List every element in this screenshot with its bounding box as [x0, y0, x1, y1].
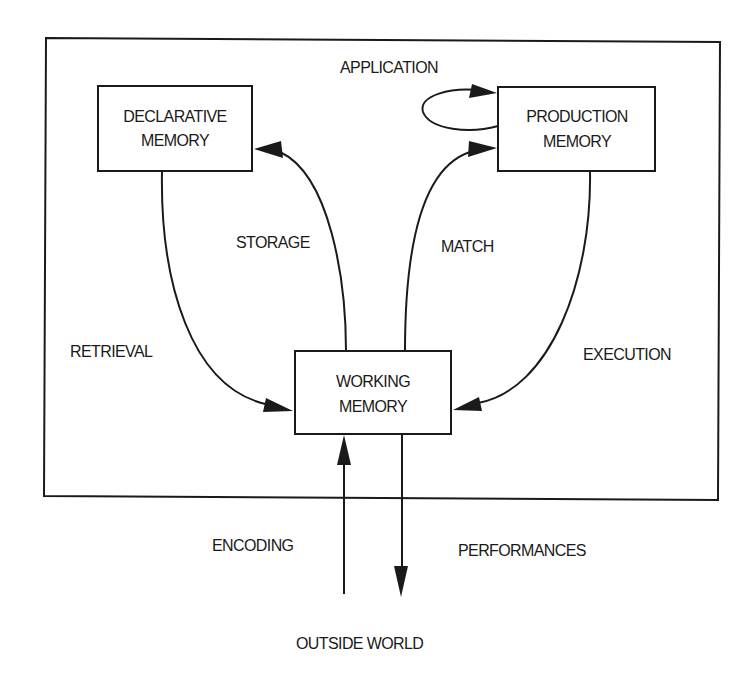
storage-path [280, 152, 346, 351]
outside-world-label: OUTSIDE WORLD [296, 635, 423, 652]
node-working-memory: WORKING MEMORY [295, 351, 451, 434]
retrieval-path [162, 171, 270, 405]
edge-storage: STORAGE [236, 141, 346, 351]
declarative-memory-box [98, 86, 252, 171]
encoding-label: ENCODING [212, 537, 294, 554]
declarative-memory-label-line1: DECLARATIVE [123, 108, 226, 125]
edge-match: MATCH [405, 141, 497, 351]
production-memory-label-line2: MEMORY [543, 133, 612, 150]
encoding-arrowhead-icon [337, 435, 351, 465]
retrieval-arrowhead-icon [263, 398, 293, 412]
edge-execution: EXECUTION [453, 171, 671, 411]
application-label: APPLICATION [340, 59, 438, 76]
match-arrowhead-icon [468, 141, 497, 157]
edge-performances: PERFORMANCES [394, 434, 586, 597]
execution-arrowhead-icon [453, 397, 482, 411]
edge-encoding: ENCODING [212, 435, 351, 594]
edge-retrieval: RETRIEVAL [70, 171, 293, 412]
declarative-memory-label-line2: MEMORY [141, 132, 210, 149]
node-production-memory: PRODUCTION MEMORY [498, 87, 655, 171]
production-memory-box [498, 87, 655, 171]
diagram-canvas: DECLARATIVE MEMORY PRODUCTION MEMORY WOR… [0, 0, 754, 681]
execution-label: EXECUTION [583, 346, 671, 363]
production-memory-label-line1: PRODUCTION [526, 108, 628, 125]
match-label: MATCH [441, 238, 494, 255]
working-memory-box [295, 351, 451, 434]
working-memory-label-line1: WORKING [336, 373, 410, 390]
application-arrowhead-icon [469, 84, 497, 98]
performances-label: PERFORMANCES [458, 542, 586, 559]
storage-label: STORAGE [236, 234, 310, 251]
performances-arrowhead-icon [394, 566, 408, 597]
retrieval-label: RETRIEVAL [70, 343, 153, 360]
working-memory-label-line2: MEMORY [339, 398, 408, 415]
storage-arrowhead-icon [254, 141, 283, 158]
node-declarative-memory: DECLARATIVE MEMORY [98, 86, 252, 171]
application-loop-path [422, 90, 498, 130]
edge-application: APPLICATION [340, 59, 498, 130]
execution-path [478, 171, 590, 403]
